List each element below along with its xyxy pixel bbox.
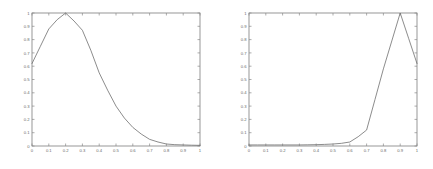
x-axis-tick-label: 0.7	[147, 148, 153, 153]
y-axis-tick-label: 0.3	[24, 104, 30, 109]
x-axis-tick-label: 1	[199, 148, 202, 153]
x-axis-tick-label: 0.8	[380, 148, 386, 153]
y-axis-tick-label: 0.5	[240, 77, 246, 82]
y-axis-tick-label: 0	[27, 144, 30, 149]
plot-frame	[32, 13, 200, 146]
x-axis-tick-label: 0.1	[262, 148, 268, 153]
y-axis-tick-label: 0.7	[24, 51, 30, 56]
y-axis-tick-label: 0.4	[240, 90, 246, 95]
x-axis-tick-label: 0.4	[313, 148, 319, 153]
y-axis-tick-label: 0.1	[24, 130, 30, 135]
x-axis-tick-label: 0.2	[279, 148, 285, 153]
y-axis-tick-label: 0.3	[240, 104, 246, 109]
chart-panel-right: 00.10.20.30.40.50.60.70.80.9100.10.20.30…	[217, 0, 433, 169]
y-axis-tick-label: 0.6	[240, 64, 246, 69]
y-axis-tick-label: 0.9	[24, 24, 30, 29]
y-axis-tick-label: 0.6	[24, 64, 30, 69]
y-axis-tick-label: 0.7	[240, 51, 246, 56]
y-axis-tick-label: 0.4	[24, 90, 30, 95]
y-axis-tick-label: 0.8	[240, 37, 246, 42]
x-axis-tick-label: 0.7	[363, 148, 369, 153]
x-axis-tick-label: 0.5	[113, 148, 119, 153]
y-axis-tick-label: 0.8	[24, 37, 30, 42]
x-axis-tick-label: 0.6	[346, 148, 352, 153]
x-axis-tick-label: 0.8	[163, 148, 169, 153]
x-axis-tick-label: 0.6	[130, 148, 136, 153]
x-axis-tick-label: 0.3	[296, 148, 302, 153]
x-axis-tick-label: 0.2	[63, 148, 69, 153]
line-chart-right: 00.10.20.30.40.50.60.70.80.9100.10.20.30…	[217, 0, 433, 169]
y-axis-tick-label: 0.2	[240, 117, 246, 122]
line-chart-left: 00.10.20.30.40.50.60.70.80.9100.10.20.30…	[0, 0, 217, 169]
chart-panel-left: 00.10.20.30.40.50.60.70.80.9100.10.20.30…	[0, 0, 217, 169]
x-axis-tick-label: 0.5	[330, 148, 336, 153]
x-axis-tick-label: 0.3	[79, 148, 85, 153]
y-axis-tick-label: 0	[244, 144, 247, 149]
x-axis-tick-label: 0.4	[96, 148, 102, 153]
x-axis-tick-label: 0	[31, 148, 34, 153]
y-axis-tick-label: 0.5	[24, 77, 30, 82]
y-axis-tick-label: 0.9	[240, 24, 246, 29]
plot-frame	[249, 13, 417, 146]
data-series-line	[32, 13, 200, 145]
x-axis-tick-label: 0.9	[397, 148, 403, 153]
y-axis-tick-label: 1	[244, 11, 247, 16]
y-axis-tick-label: 1	[27, 11, 30, 16]
y-axis-tick-label: 0.1	[240, 130, 246, 135]
x-axis-tick-label: 0	[247, 148, 250, 153]
data-series-line	[249, 13, 417, 145]
y-axis-tick-label: 0.2	[24, 117, 30, 122]
x-axis-tick-label: 0.9	[180, 148, 186, 153]
x-axis-tick-label: 0.1	[46, 148, 52, 153]
figure-container: 00.10.20.30.40.50.60.70.80.9100.10.20.30…	[0, 0, 433, 169]
x-axis-tick-label: 1	[415, 148, 418, 153]
